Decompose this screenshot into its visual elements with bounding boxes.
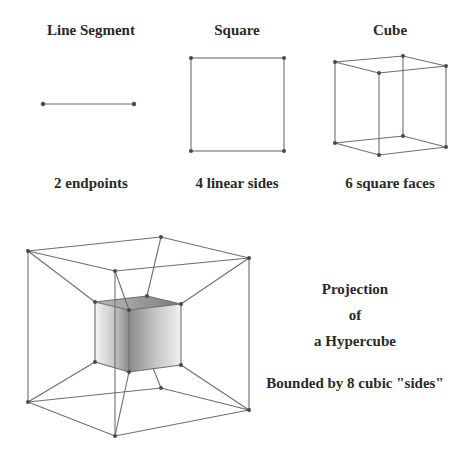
- inner-cube: [95, 296, 181, 372]
- hypercube-figure: [26, 235, 251, 438]
- vertex-dot: [189, 149, 193, 153]
- square-figure: [189, 56, 286, 153]
- vertex-dot: [282, 149, 286, 153]
- geometry-diagram: [0, 0, 471, 458]
- vertex-dot: [282, 56, 286, 60]
- line-segment-figure: [41, 102, 136, 106]
- cube-figure: [333, 54, 448, 157]
- vertex-dot: [189, 56, 193, 60]
- vertex-dot: [41, 102, 45, 106]
- vertex-dot: [132, 102, 136, 106]
